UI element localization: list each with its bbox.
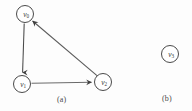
panel-a-caption: (a): [57, 95, 66, 104]
edge-v2-v0: [33, 21, 97, 76]
graph-node-v0-label: v0: [17, 6, 35, 24]
graph-node-v2-label: v2: [95, 74, 113, 92]
panel-b-caption: (b): [162, 94, 172, 103]
panel-b: v3 (b): [135, 0, 192, 111]
edge-v1-v2: [32, 82, 92, 83]
edge-v0-v1: [23, 24, 25, 73]
figure-directed-graph: v0 v1 v2 (a) v3 (b): [0, 0, 192, 111]
graph-node-v1-label: v1: [14, 76, 32, 94]
panel-a: v0 v1 v2 (a): [0, 0, 135, 111]
graph-node-v0[interactable]: v0: [16, 5, 34, 23]
graph-node-v3-label: v3: [162, 46, 180, 64]
graph-node-v3[interactable]: v3: [161, 45, 179, 63]
graph-node-v2[interactable]: v2: [94, 73, 112, 91]
graph-node-v1[interactable]: v1: [13, 75, 31, 93]
